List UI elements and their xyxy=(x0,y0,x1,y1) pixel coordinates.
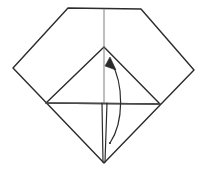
origami-svg-canvas xyxy=(0,0,207,177)
origami-diagram xyxy=(0,0,207,177)
fold-arrow-tail-dot xyxy=(109,142,111,144)
